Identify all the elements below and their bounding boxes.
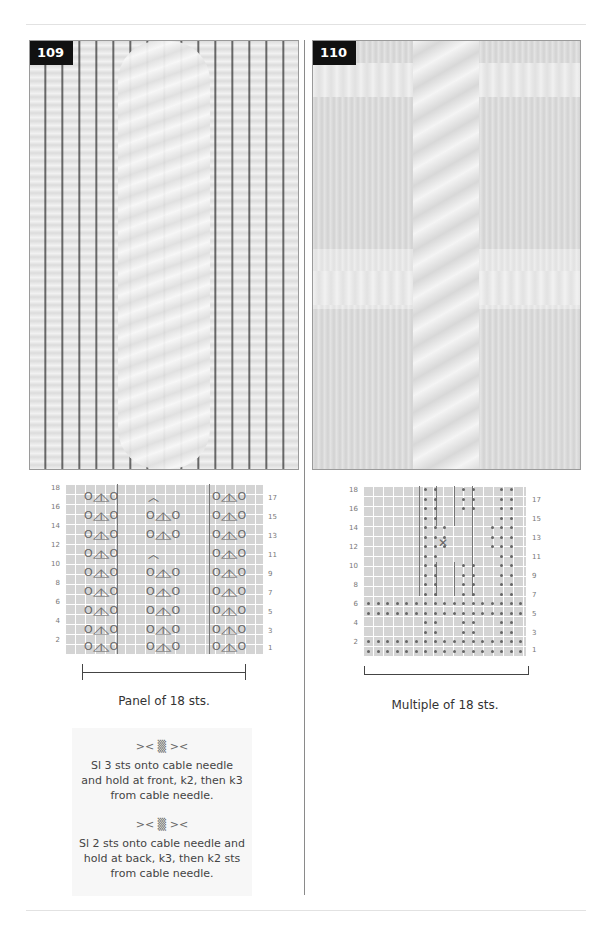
purl-dot — [424, 593, 427, 596]
purl-dot — [500, 555, 503, 558]
cable-cross-symbol: ︿ — [148, 545, 159, 561]
caption-110: Multiple of 18 sts. — [345, 698, 545, 712]
lace-symbols: O◿◺O — [84, 640, 118, 653]
cable-back-2-3-icon: >< ▒ >< — [72, 818, 252, 831]
knitting-chart-109: O◿◺O ︿ O◿◺O O◿◺O O◿◺O O◿◺O O◿◺O O◿◺O O◿◺… — [66, 484, 263, 654]
purl-dot — [434, 612, 437, 615]
purl-dot — [500, 488, 503, 491]
purl-dot — [424, 602, 427, 605]
purl-dot — [434, 536, 437, 539]
lace-symbols: O◿◺O — [146, 640, 180, 653]
cable-texture — [413, 41, 479, 469]
purl-dot — [434, 574, 437, 577]
purl-dot — [377, 612, 380, 615]
lace-symbols: O◿◺O — [212, 490, 246, 503]
purl-dot — [500, 612, 503, 615]
lace-symbols: O◿◺O — [146, 623, 180, 636]
lace-symbols: O◿◺O — [84, 490, 118, 503]
purl-dot — [424, 640, 427, 643]
panel-edge-line — [209, 484, 210, 654]
purl-dot — [396, 640, 399, 643]
purl-dot — [462, 593, 465, 596]
purl-dot — [453, 640, 456, 643]
lace-symbols: O◿◺O — [212, 585, 246, 598]
purl-dot — [424, 536, 427, 539]
lace-symbols: O◿◺O — [212, 604, 246, 617]
purl-dot — [481, 650, 484, 653]
purl-dot — [481, 640, 484, 643]
purl-dot — [405, 650, 408, 653]
purl-dot — [424, 631, 427, 634]
cable-edge-line — [454, 562, 455, 596]
purl-dot — [500, 545, 503, 548]
purl-dot — [462, 564, 465, 567]
swatch-photo-110: 110 — [312, 40, 581, 470]
purl-dot — [453, 602, 456, 605]
knitting-chart-110: ✕ — [364, 486, 526, 656]
top-rule — [26, 24, 586, 25]
purl-dot — [462, 602, 465, 605]
purl-dot — [491, 650, 494, 653]
purl-dot — [500, 526, 503, 529]
purl-dot — [500, 631, 503, 634]
purl-dot — [491, 536, 494, 539]
cable-front-3-2-icon: >< ▒ >< — [72, 740, 252, 753]
lace-symbols: O◿◺O — [146, 585, 180, 598]
purl-dot — [519, 650, 522, 653]
purl-dot — [443, 545, 446, 548]
cable-edge-line — [472, 486, 473, 596]
caption-109: Panel of 18 sts. — [66, 694, 262, 708]
purl-dot — [405, 640, 408, 643]
swatch-photo-109: 109 — [29, 40, 299, 470]
purl-dot — [472, 564, 475, 567]
purl-dot — [367, 640, 370, 643]
purl-dot — [434, 602, 437, 605]
purl-dot — [377, 640, 380, 643]
purl-dot — [424, 507, 427, 510]
lace-symbols: O◿◺O — [84, 623, 118, 636]
purl-dot — [396, 650, 399, 653]
purl-dot — [424, 488, 427, 491]
chart-110-row-numbers-left: 18 16 14 12 10 8 6 4 2 — [342, 486, 358, 656]
lace-symbols: O◿◺O — [146, 509, 180, 522]
chart-110-row-numbers-right: 17 15 13 11 9 7 5 3 1 — [532, 486, 548, 656]
purl-dot — [453, 612, 456, 615]
lace-symbols: O◿◺O — [84, 604, 118, 617]
purl-dot — [491, 545, 494, 548]
chart-109-row-numbers-left: 18 16 14 12 10 8 6 4 2 — [44, 484, 60, 654]
purl-dot — [510, 640, 513, 643]
lace-symbols: O◿◺O — [84, 547, 118, 560]
key-text-back-cross: Sl 2 sts onto cable needle and hold at b… — [72, 836, 252, 881]
bottom-rule — [26, 910, 586, 911]
purl-dot — [386, 640, 389, 643]
purl-dot — [472, 650, 475, 653]
purl-dot — [472, 602, 475, 605]
purl-dot — [510, 498, 513, 501]
purl-dot — [510, 650, 513, 653]
purl-dot — [510, 536, 513, 539]
purl-dot — [434, 650, 437, 653]
purl-dot — [462, 640, 465, 643]
purl-dot — [472, 593, 475, 596]
purl-dot — [415, 612, 418, 615]
purl-dot — [434, 488, 437, 491]
purl-dot — [472, 488, 475, 491]
purl-dot — [415, 640, 418, 643]
purl-dot — [462, 583, 465, 586]
purl-dot — [424, 545, 427, 548]
purl-dot — [500, 650, 503, 653]
purl-dot — [472, 640, 475, 643]
purl-dot — [500, 507, 503, 510]
lace-symbols: O◿◺O — [84, 528, 118, 541]
purl-dot — [472, 498, 475, 501]
purl-dot — [405, 612, 408, 615]
purl-dot — [424, 621, 427, 624]
purl-dot — [519, 640, 522, 643]
pattern-number-badge: 110 — [313, 41, 356, 65]
purl-dot — [510, 612, 513, 615]
cable-edge-line — [436, 562, 437, 596]
purl-dot — [481, 612, 484, 615]
purl-dot — [386, 650, 389, 653]
purl-dot — [491, 602, 494, 605]
cable-edge-line — [436, 486, 437, 526]
